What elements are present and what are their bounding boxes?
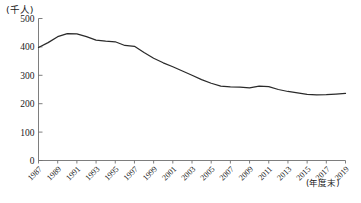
y-tick-label: 300 xyxy=(20,71,35,81)
y-tick-label: 0 xyxy=(30,156,35,166)
line-chart: (千人) 0100200300400500 198719891991199319… xyxy=(0,0,361,203)
y-tick-label: 400 xyxy=(20,42,35,52)
data-series-line xyxy=(39,34,346,95)
y-tick-label: 500 xyxy=(20,14,35,24)
chart-container: (千人) 0100200300400500 198719891991199319… xyxy=(0,0,361,203)
x-tick-label: 2011 xyxy=(256,165,274,183)
x-tick-label: 1997 xyxy=(122,165,140,183)
x-tick-group: 1987198919911993199519971999200120032005… xyxy=(26,161,351,183)
x-tick-label: 1991 xyxy=(64,165,82,183)
x-tick-label: 1987 xyxy=(26,165,44,183)
x-axis-caption-label: (年度末) xyxy=(306,178,340,188)
x-tick-label: 2005 xyxy=(199,165,217,183)
y-tick-label: 200 xyxy=(20,99,35,109)
x-tick-label: 2009 xyxy=(237,165,255,183)
x-tick-label: 2001 xyxy=(160,165,178,183)
axis-group xyxy=(39,19,346,161)
y-tick-label: 100 xyxy=(20,128,35,138)
y-tick-group: 0100200300400500 xyxy=(20,14,42,166)
x-tick-label: 1993 xyxy=(84,165,102,183)
x-tick-label: 1989 xyxy=(45,165,63,183)
x-tick-label: 2013 xyxy=(275,165,293,183)
x-tick-label: 1995 xyxy=(103,165,121,183)
x-tick-label: 2007 xyxy=(218,165,236,183)
x-tick-label: 2003 xyxy=(179,165,197,183)
x-tick-label: 1999 xyxy=(141,165,159,183)
